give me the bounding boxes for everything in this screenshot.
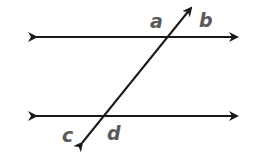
angle-label-d: d	[107, 124, 121, 143]
transversal-line	[82, 8, 191, 143]
angle-label-b: b	[199, 11, 213, 30]
angle-label-c: c	[62, 126, 73, 145]
angle-label-a: a	[150, 12, 163, 31]
parallel-lines-transversal-diagram	[0, 0, 255, 154]
